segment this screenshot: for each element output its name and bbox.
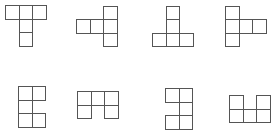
cell [32, 86, 47, 101]
cell [18, 86, 33, 101]
cell [179, 102, 194, 117]
cell [5, 5, 20, 20]
cell [103, 6, 118, 21]
cell [91, 91, 106, 106]
cell [243, 109, 258, 124]
cell [165, 115, 180, 130]
cell [225, 6, 240, 21]
cell [179, 88, 194, 103]
cell [77, 91, 92, 106]
cell [225, 33, 240, 48]
cell [256, 109, 271, 124]
cell [32, 5, 47, 20]
cell [18, 113, 33, 128]
cell [19, 32, 34, 47]
cell [77, 105, 92, 120]
cell [18, 100, 33, 115]
cell [104, 91, 119, 106]
cell [166, 6, 181, 21]
cell [229, 109, 244, 124]
cell [152, 33, 167, 48]
cell [19, 5, 34, 20]
cell [239, 19, 254, 34]
cell [76, 19, 91, 34]
cell [90, 19, 105, 34]
cell [229, 95, 244, 110]
cell [179, 33, 194, 48]
cell [103, 19, 118, 34]
cell [32, 113, 47, 128]
cell [103, 33, 118, 48]
cell [256, 95, 271, 110]
cell [225, 19, 240, 34]
cell [165, 88, 180, 103]
cell [104, 105, 119, 120]
cell [179, 115, 194, 130]
cell [166, 19, 181, 34]
cell [19, 19, 34, 34]
cell [166, 33, 181, 48]
cell [252, 19, 267, 34]
